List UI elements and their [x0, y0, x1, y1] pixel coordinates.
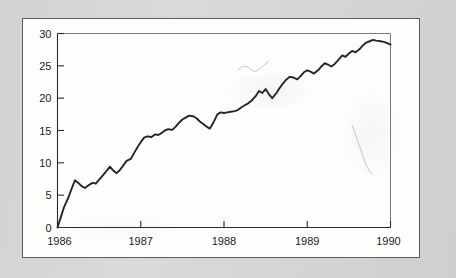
y-tick-label: 5 [45, 189, 51, 201]
data-series-group [58, 40, 391, 228]
x-tick-label: 1989 [295, 235, 319, 247]
y-tick-label: 15 [39, 125, 51, 137]
chart-svg: 051015202530 19861987198819891990 [0, 0, 456, 278]
y-tick-label: 0 [45, 222, 51, 234]
y-tick-label: 25 [39, 60, 51, 72]
line-chart: 051015202530 19861987198819891990 [0, 0, 456, 278]
smudge-stroke-right [352, 125, 372, 174]
y-tick-label: 30 [39, 28, 51, 40]
y-axis: 051015202530 [39, 28, 64, 234]
y-tick-label: 10 [39, 157, 51, 169]
x-axis: 19861987198819891990 [47, 221, 400, 247]
chart-frame [58, 34, 391, 228]
x-tick-label: 1990 [376, 235, 400, 247]
x-axis-ticks [58, 221, 391, 228]
smudge-stroke-upper [238, 61, 269, 71]
scan-smudge-marks [238, 61, 372, 174]
x-axis-tick-labels: 19861987198819891990 [47, 235, 400, 247]
series-line-1 [58, 40, 391, 228]
y-axis-tick-labels: 051015202530 [39, 28, 51, 234]
page-root: 051015202530 19861987198819891990 [0, 0, 456, 278]
y-tick-label: 20 [39, 92, 51, 104]
x-tick-label: 1988 [212, 235, 236, 247]
x-tick-label: 1987 [129, 235, 153, 247]
y-axis-ticks [58, 34, 65, 196]
x-tick-label: 1986 [47, 235, 71, 247]
